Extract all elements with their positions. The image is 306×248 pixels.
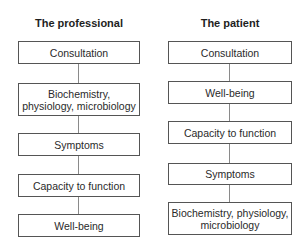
professional-connector-4 xyxy=(78,197,79,214)
professional-column-title: The professional xyxy=(18,17,140,30)
patient-connector-1 xyxy=(229,64,230,81)
patient-connector-3 xyxy=(229,144,230,163)
professional-connector-3 xyxy=(78,156,79,174)
professional-connector-1 xyxy=(78,64,79,83)
patient-box-symptoms: Symptoms xyxy=(168,163,292,185)
professional-box-capacity: Capacity to function xyxy=(18,174,140,197)
patient-connector-2 xyxy=(229,104,230,121)
patient-box-biochemistry: Biochemistry, physiology, microbiology xyxy=(168,202,292,235)
professional-box-symptoms: Symptoms xyxy=(18,133,140,156)
professional-box-biochemistry: Biochemistry, physiology, microbiology xyxy=(18,83,140,116)
patient-column-title: The patient xyxy=(168,17,292,30)
patient-connector-4 xyxy=(229,185,230,202)
professional-box-wellbeing: Well-being xyxy=(18,214,140,237)
professional-box-consultation: Consultation xyxy=(18,41,140,64)
professional-connector-2 xyxy=(78,116,79,133)
patient-box-consultation: Consultation xyxy=(168,41,292,64)
patient-box-capacity: Capacity to function xyxy=(168,121,292,144)
patient-box-wellbeing: Well-being xyxy=(168,81,292,104)
